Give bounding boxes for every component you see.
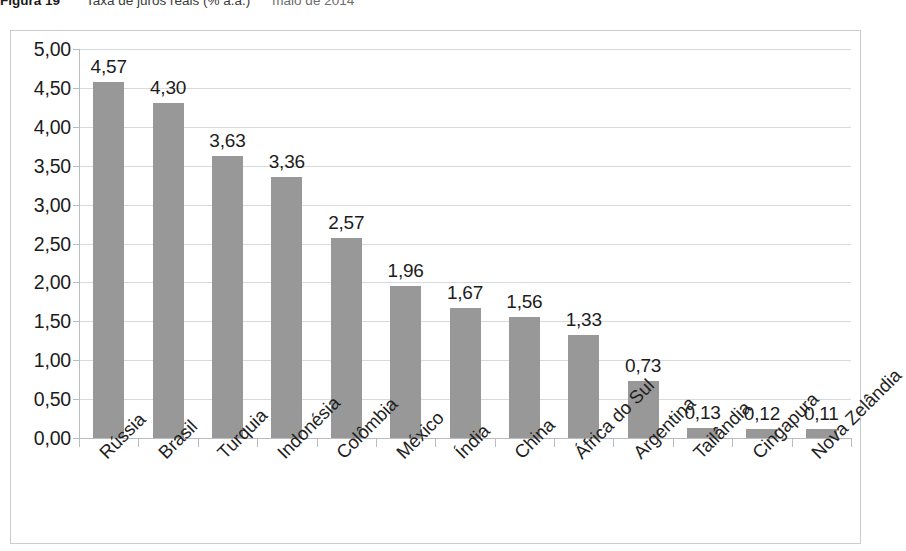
y-axis-tick [73,321,80,322]
bar[interactable] [271,177,302,438]
y-axis-tick-label: 2,50 [15,232,71,255]
figure-caption-text: Taxa de juros reais (% a.a.) [86,0,250,8]
y-axis-tick-label: 1,00 [15,349,71,372]
y-axis-tick [73,360,80,361]
y-axis-tick-label: 3,00 [15,193,71,216]
bar-value-label: 1,96 [371,260,441,282]
y-axis-tick [73,205,80,206]
y-axis-tick-label: 3,50 [15,154,71,177]
figure-caption: Figura 19Taxa de juros reais (% a.a.)mai… [0,0,871,11]
figure-caption-label: Figura 19 [0,0,60,8]
y-axis-tick-label: 2,00 [15,271,71,294]
y-axis-tick-labels: 5,004,504,003,503,002,502,001,501,000,50… [11,31,71,545]
bar-value-label: 2,57 [311,212,381,234]
bar[interactable] [93,82,124,438]
x-axis-category-labels: RússiaBrasilTurquiaIndonésiaColômbiaMéxi… [79,438,869,551]
bar[interactable] [212,156,243,438]
bar-value-label: 4,57 [74,56,144,78]
y-axis-tick-label: 0,00 [15,427,71,450]
y-axis-tick [73,438,80,439]
y-axis-tick [73,127,80,128]
y-axis-tick-label: 4,00 [15,115,71,138]
bar[interactable] [450,308,481,438]
y-axis-tick [73,244,80,245]
bar-value-label: 3,63 [192,130,262,152]
chart-frame: 5,004,504,003,503,002,502,001,501,000,50… [10,30,861,544]
bar[interactable] [153,103,184,438]
bar-value-label: 3,36 [252,151,322,173]
y-axis-tick [73,282,80,283]
bar-value-label: 1,33 [549,309,619,331]
y-axis-tick-label: 1,50 [15,310,71,333]
bar[interactable] [509,317,540,438]
y-axis-tick [73,399,80,400]
y-axis-tick-label: 5,00 [15,38,71,61]
bar-value-label: 4,30 [133,77,203,99]
y-axis-tick [73,166,80,167]
figure-caption-date: maio de 2014 [272,0,354,8]
y-axis-tick [73,88,80,89]
y-axis-tick-label: 4,50 [15,76,71,99]
bars-layer: 4,574,303,633,362,571,961,671,561,330,73… [79,49,851,438]
y-axis-tick-label: 0,50 [15,388,71,411]
y-axis-tick [73,49,80,50]
